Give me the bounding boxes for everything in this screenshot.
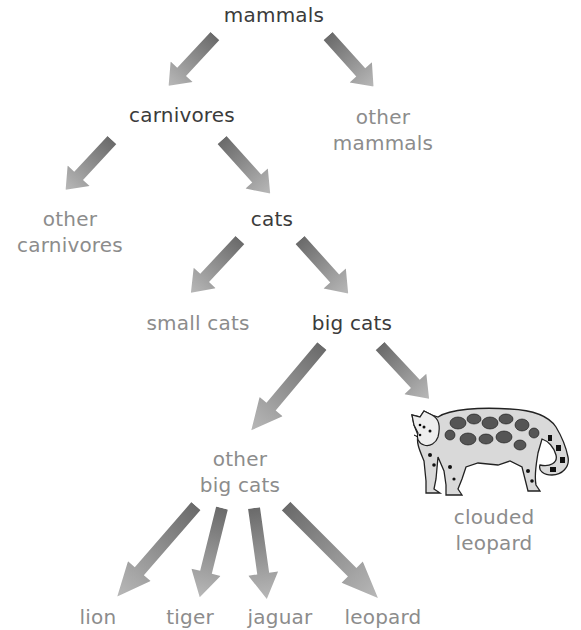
node-label: leopard	[344, 605, 421, 629]
node-clouded-leopard: clouded leopard	[454, 504, 535, 556]
node-label-line2: leopard	[454, 530, 535, 556]
node-other-carnivores: other carnivores	[17, 206, 123, 258]
clouded-leopard-illustration	[410, 405, 575, 500]
node-small-cats: small cats	[146, 310, 249, 336]
node-jaguar: jaguar	[248, 604, 313, 630]
arrow-big-cats-other-big-cats	[240, 336, 334, 440]
arrow-carnivores-cats	[211, 130, 281, 204]
node-label-line2: mammals	[333, 130, 433, 156]
arrow-cats-small-cats	[180, 230, 251, 303]
arrow-other-big-cats-leopard	[275, 495, 388, 608]
node-label-line2: carnivores	[17, 232, 123, 258]
node-label-line1: other	[200, 446, 280, 472]
node-label: mammals	[224, 3, 324, 27]
node-label: small cats	[146, 311, 249, 335]
node-big-cats: big cats	[312, 310, 392, 336]
arrow-mammals-other-mammals	[317, 26, 385, 97]
node-carnivores: carnivores	[129, 102, 235, 128]
node-other-big-cats: other big cats	[200, 446, 280, 498]
node-other-mammals: other mammals	[333, 104, 433, 156]
arrow-carnivores-other-carnivores	[55, 130, 123, 200]
node-label-line1: clouded	[454, 504, 535, 530]
node-label: tiger	[166, 605, 214, 629]
node-lion: lion	[80, 604, 117, 630]
node-label-line1: other	[333, 104, 433, 130]
node-label: carnivores	[129, 103, 235, 127]
arrow-other-big-cats-jaguar	[239, 506, 282, 601]
node-label: jaguar	[248, 605, 313, 629]
arrow-mammals-carnivores	[158, 26, 226, 96]
arrow-other-big-cats-lion	[106, 496, 207, 606]
node-label-line2: big cats	[200, 472, 280, 498]
arrow-other-big-cats-tiger	[185, 504, 236, 601]
node-label: lion	[80, 605, 117, 629]
node-label: big cats	[312, 311, 392, 335]
taxonomy-diagram: mammals carnivores other mammals other c…	[0, 0, 581, 630]
node-mammals: mammals	[224, 2, 324, 28]
node-cats: cats	[251, 206, 293, 232]
arrow-cats-big-cats	[289, 230, 359, 304]
node-leopard: leopard	[344, 604, 421, 630]
node-label: cats	[251, 207, 293, 231]
arrow-big-cats-clouded-leopard	[369, 336, 440, 409]
node-tiger: tiger	[166, 604, 214, 630]
node-label-line1: other	[17, 206, 123, 232]
